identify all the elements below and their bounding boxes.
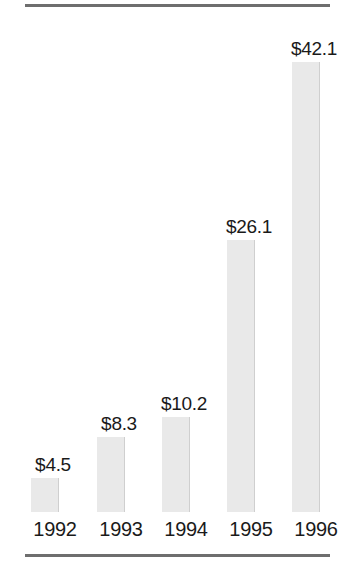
bar-value-label-1996: $42.1 [278,39,350,59]
bar-value-label-1993: $8.3 [83,414,155,434]
bar-1996 [292,62,320,512]
category-label-1995: 1995 [218,518,284,540]
bar-1993 [97,437,125,512]
bar-column-1992: $4.5 1992 [25,0,91,582]
chart-plot-area: $4.5 1992 $8.3 1993 $10.2 1994 $26.1 199… [0,0,351,582]
bar-column-1994: $10.2 1994 [156,0,222,582]
bar-column-1995: $26.1 1995 [221,0,287,582]
bar-1992 [31,478,59,512]
bottom-rule-divider [25,554,330,557]
category-label-1993: 1993 [88,518,154,540]
category-label-1996: 1996 [283,518,349,540]
bar-1994 [162,417,190,512]
bar-column-1993: $8.3 1993 [91,0,157,582]
bar-value-label-1994: $10.2 [148,394,220,414]
bar-value-label-1995: $26.1 [213,217,285,237]
bar-1995 [227,240,255,512]
category-label-1992: 1992 [22,518,88,540]
bar-value-label-1992: $4.5 [17,455,89,475]
bar-column-1996: $42.1 1996 [286,0,351,582]
category-label-1994: 1994 [153,518,219,540]
bar-chart-figure: $4.5 1992 $8.3 1993 $10.2 1994 $26.1 199… [0,0,351,582]
